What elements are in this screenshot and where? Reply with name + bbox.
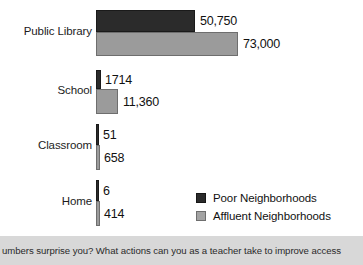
caption-text: umbers surprise you? What actions can yo… xyxy=(0,245,341,256)
chart-group-public-library: Public Library 50,750 73,000 xyxy=(0,10,363,56)
bar-home-poor xyxy=(96,180,99,201)
bar-school-affluent xyxy=(96,89,118,114)
bar-row-classroom-poor: 51 xyxy=(96,124,256,145)
bar-row-public-library-affluent: 73,000 xyxy=(96,32,356,56)
legend-item-affluent: Affluent Neighborhoods xyxy=(196,208,331,224)
value-label-home-poor: 6 xyxy=(103,184,110,198)
bar-classroom-affluent xyxy=(96,145,100,170)
legend-label-affluent: Affluent Neighborhoods xyxy=(213,210,331,222)
bar-classroom-poor xyxy=(96,124,99,145)
legend-item-poor: Poor Neighborhoods xyxy=(196,190,331,206)
bar-public-library-poor xyxy=(96,10,195,32)
bar-row-school-poor: 1714 xyxy=(96,70,296,89)
value-label-public-library-poor: 50,750 xyxy=(200,14,237,28)
bar-row-public-library-poor: 50,750 xyxy=(96,10,356,32)
category-label-classroom: Classroom xyxy=(0,139,92,151)
chart-group-classroom: Classroom 51 658 xyxy=(0,124,363,170)
category-label-school: School xyxy=(0,84,92,96)
value-label-school-affluent: 11,360 xyxy=(123,95,159,109)
bar-chart: Public Library 50,750 73,000 School 1714… xyxy=(0,0,363,232)
value-label-home-affluent: 414 xyxy=(104,207,124,221)
value-label-classroom-poor: 51 xyxy=(103,128,117,142)
legend-label-poor: Poor Neighborhoods xyxy=(213,192,317,204)
value-label-classroom-affluent: 658 xyxy=(104,151,124,165)
bar-school-poor xyxy=(96,70,101,89)
value-label-school-poor: 1714 xyxy=(105,73,132,87)
chart-legend: Poor Neighborhoods Affluent Neighborhood… xyxy=(196,190,331,226)
category-label-home: Home xyxy=(0,195,92,207)
bar-row-classroom-affluent: 658 xyxy=(96,145,256,170)
category-label-public-library: Public Library xyxy=(0,25,92,37)
legend-swatch-affluent-icon xyxy=(196,211,206,221)
bar-row-school-affluent: 11,360 xyxy=(96,89,296,114)
chart-group-school: School 1714 11,360 xyxy=(0,70,363,114)
value-label-public-library-affluent: 73,000 xyxy=(243,37,280,51)
bar-home-affluent xyxy=(96,201,100,226)
bar-public-library-affluent xyxy=(96,32,238,56)
caption-bar: umbers surprise you? What actions can yo… xyxy=(0,236,363,265)
legend-swatch-poor-icon xyxy=(196,193,206,203)
